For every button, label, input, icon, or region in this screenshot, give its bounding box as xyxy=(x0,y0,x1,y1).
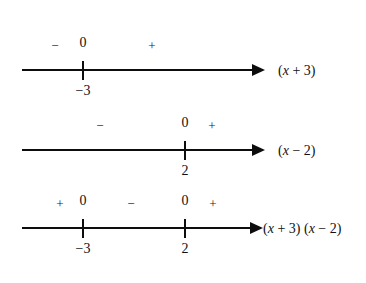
zero-marker: 0 xyxy=(72,36,94,50)
sign-positive: + xyxy=(142,39,162,52)
tick-mark xyxy=(82,61,84,80)
arrowhead-icon xyxy=(252,144,265,156)
tick-mark xyxy=(184,219,186,238)
factor-label-x-minus-2: (x − 2) xyxy=(278,144,315,158)
sign-negative-middle: − xyxy=(121,197,141,210)
sign-positive-left: + xyxy=(50,197,70,210)
zero-marker: 0 xyxy=(72,194,94,208)
arrowhead-icon xyxy=(250,222,263,234)
axis-line xyxy=(22,69,252,71)
tick-mark xyxy=(82,219,84,238)
root-value: −3 xyxy=(68,84,98,98)
sign-positive: + xyxy=(202,119,222,132)
zero-marker: 0 xyxy=(174,116,196,130)
root-value: 2 xyxy=(170,164,200,178)
sign-negative: − xyxy=(45,39,65,52)
root-value: −3 xyxy=(68,242,98,256)
axis-line xyxy=(22,149,252,151)
root-value: 2 xyxy=(170,242,200,256)
factor-tail: + 3) xyxy=(289,63,316,78)
factor-tail-second: − 2) xyxy=(315,221,342,236)
factor-label-x-plus-3: (x + 3) xyxy=(278,64,315,78)
zero-marker: 0 xyxy=(174,194,196,208)
axis-line xyxy=(22,227,250,229)
factor-tail-first: + 3) xyxy=(274,221,301,236)
sign-negative: − xyxy=(90,119,110,132)
sign-positive-right: + xyxy=(203,197,223,210)
tick-mark xyxy=(184,141,186,160)
arrowhead-icon xyxy=(252,64,265,76)
factor-label-product: (x + 3) (x − 2) xyxy=(263,222,341,236)
sign-chart-figure: 0 −3 − + (x + 3) 0 2 − + (x − 2) 0 −3 0 … xyxy=(0,0,366,283)
factor-tail: − 2) xyxy=(289,143,316,158)
